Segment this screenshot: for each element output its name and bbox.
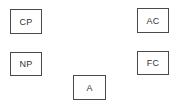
node-label: NP <box>20 59 33 69</box>
node-label: CP <box>20 17 33 27</box>
node-label: A <box>86 83 92 93</box>
node-label: AC <box>147 16 160 26</box>
node-fc: FC <box>137 51 169 75</box>
node-cp: CP <box>10 9 42 34</box>
node-label: FC <box>147 58 159 68</box>
node-a: A <box>73 75 106 100</box>
node-np: NP <box>10 52 42 76</box>
node-ac: AC <box>137 8 169 33</box>
